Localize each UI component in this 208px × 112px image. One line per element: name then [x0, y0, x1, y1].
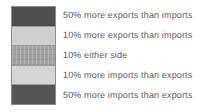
swatch-50-more-exports	[12, 7, 55, 26]
swatch-10-more-exports	[12, 26, 55, 46]
chart-legend: 50% more exports than imports 10% more e…	[0, 0, 208, 112]
legend-label-column: 50% more exports than imports 10% more e…	[63, 6, 208, 105]
legend-swatch-column	[11, 6, 56, 105]
swatch-50-more-imports	[12, 84, 55, 104]
legend-label-10-either-side: 10% either side	[63, 46, 208, 66]
swatch-10-more-imports	[12, 65, 55, 85]
legend-label-50-more-imports: 50% more imports than exports	[63, 85, 208, 105]
legend-label-10-more-exports: 10% more exports than imports	[63, 26, 208, 46]
legend-label-50-more-exports: 50% more exports than imports	[63, 6, 208, 26]
swatch-10-either-side	[12, 45, 55, 65]
legend-label-10-more-imports: 10% more imports than exports	[63, 65, 208, 85]
